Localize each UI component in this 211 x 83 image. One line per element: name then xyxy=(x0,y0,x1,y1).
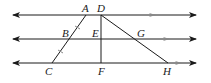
label-B: B xyxy=(62,27,69,39)
label-D: D xyxy=(96,2,105,14)
label-C: C xyxy=(45,65,53,77)
label-E: E xyxy=(91,27,99,39)
label-H: H xyxy=(162,65,172,77)
label-G: G xyxy=(137,27,145,39)
label-A: A xyxy=(81,2,89,14)
geometry-diagram: A D B E G C F H xyxy=(0,0,211,83)
label-F: F xyxy=(97,65,105,77)
